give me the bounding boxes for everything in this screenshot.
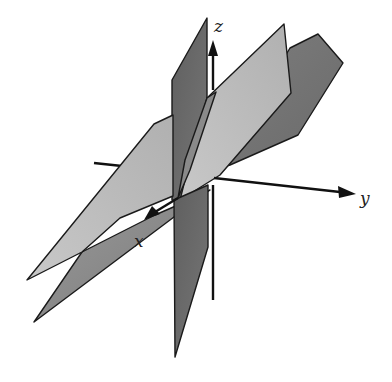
- z-axis-arrowhead: [208, 40, 218, 56]
- y-axis-positive: [214, 178, 340, 192]
- y-axis-negative: [94, 163, 122, 166]
- three-planes-diagram: z y x: [0, 0, 392, 382]
- x-axis-label: x: [134, 231, 144, 251]
- y-axis-arrowhead: [338, 186, 356, 198]
- vertical-plane-lower: [174, 185, 208, 357]
- y-axis-label: y: [359, 188, 370, 208]
- z-axis-label: z: [213, 16, 224, 36]
